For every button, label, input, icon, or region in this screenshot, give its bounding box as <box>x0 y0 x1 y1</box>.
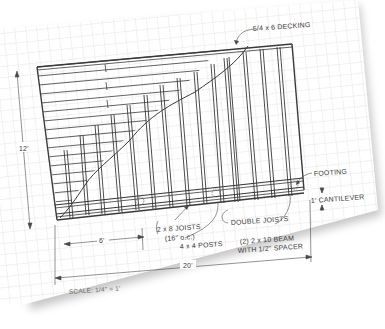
deck-plan-drawing: 12' 6' 20' <box>0 0 385 329</box>
post-spacing-label: 6' <box>99 237 105 244</box>
grid-lines <box>0 0 378 305</box>
width-dimension-label: 20' <box>183 262 193 269</box>
height-dimension-label: 12' <box>19 145 29 152</box>
